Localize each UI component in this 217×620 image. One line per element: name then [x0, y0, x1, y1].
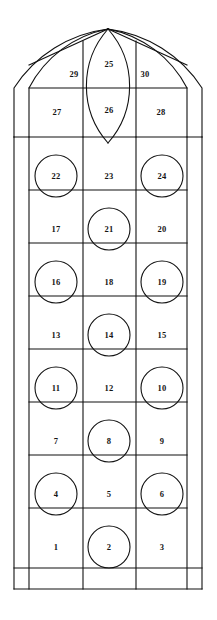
panel-label-8: 8 — [107, 437, 111, 446]
panel-label-27: 27 — [53, 108, 62, 117]
panel-label-9: 9 — [160, 437, 164, 446]
panel-label-26: 26 — [105, 106, 114, 115]
roundel-group — [35, 155, 183, 568]
panel-label-23: 23 — [105, 172, 114, 181]
panel-label-12: 12 — [105, 384, 114, 393]
vesica-left-arc — [86, 29, 108, 143]
panel-label-17: 17 — [52, 225, 61, 234]
panel-label-5: 5 — [107, 490, 111, 499]
panel-label-21: 21 — [105, 225, 114, 234]
panel-label-14: 14 — [105, 331, 114, 340]
panel-label-20: 20 — [158, 225, 167, 234]
panel-label-11: 11 — [52, 384, 60, 393]
panel-label-2: 2 — [107, 543, 111, 552]
panel-label-25: 25 — [105, 60, 114, 69]
panel-label-28: 28 — [157, 108, 166, 117]
panel-label-3: 3 — [160, 543, 164, 552]
panel-label-18: 18 — [105, 278, 114, 287]
panel-label-13: 13 — [52, 331, 61, 340]
panel-label-6: 6 — [160, 490, 164, 499]
gothic-window-diagram: 1 2 3 4 5 6 7 8 9 11 12 10 13 14 15 16 1… — [0, 0, 217, 620]
panel-label-10: 10 — [158, 384, 167, 393]
panel-label-15: 15 — [158, 331, 167, 340]
panel-label-22: 22 — [52, 172, 61, 181]
panel-label-16: 16 — [52, 278, 61, 287]
vesica-right-arc — [108, 29, 130, 143]
window-tracery-svg — [0, 0, 217, 620]
panel-label-24: 24 — [158, 172, 167, 181]
panel-label-30: 30 — [141, 70, 150, 79]
panel-label-7: 7 — [54, 437, 58, 446]
panel-label-1: 1 — [54, 543, 58, 552]
panel-label-19: 19 — [158, 278, 167, 287]
panel-label-29: 29 — [70, 70, 79, 79]
panel-label-4: 4 — [54, 490, 58, 499]
